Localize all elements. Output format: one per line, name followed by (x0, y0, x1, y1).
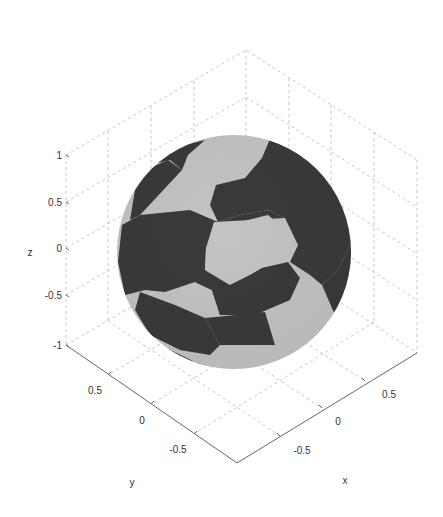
svg-text:1: 1 (56, 150, 62, 161)
svg-text:0: 0 (139, 415, 145, 426)
svg-text:0.5: 0.5 (88, 385, 102, 396)
sphere (117, 134, 370, 380)
svg-text:-0.5: -0.5 (169, 444, 187, 455)
svg-text:-1: -1 (53, 340, 62, 351)
z-axis-label: z (28, 247, 33, 258)
x-axis-line (237, 353, 417, 463)
y-tick-labels: 0.5 0 -0.5 (88, 385, 187, 455)
y-axis-label: y (130, 477, 135, 488)
svg-text:-0.5: -0.5 (293, 445, 311, 456)
z-tick-labels: 1 0.5 0 -0.5 -1 (45, 150, 63, 351)
svg-text:0: 0 (335, 416, 341, 427)
sphere-surface-plot: 1 0.5 0 -0.5 -1 0.5 0 -0.5 -0.5 0 0.5 z … (0, 0, 443, 517)
svg-text:0: 0 (56, 243, 62, 254)
svg-text:-0.5: -0.5 (45, 290, 63, 301)
svg-text:0.5: 0.5 (382, 389, 396, 400)
x-axis-label: x (343, 475, 348, 486)
svg-text:0.5: 0.5 (48, 197, 62, 208)
